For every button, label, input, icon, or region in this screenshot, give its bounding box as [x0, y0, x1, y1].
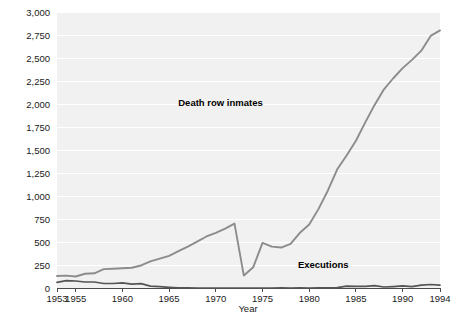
y-axis-tick-label: 2,500 — [26, 53, 50, 64]
x-axis-tick-label: 1955 — [65, 293, 86, 304]
y-axis-tick-label: 250 — [34, 260, 50, 271]
x-axis-tick-label: 1985 — [345, 293, 366, 304]
x-axis-tick-label: 1965 — [159, 293, 180, 304]
y-axis-tick-label: 3,000 — [26, 7, 50, 18]
x-axis-tick-label: 1980 — [299, 293, 320, 304]
y-axis-tick-labels: 02505007501,0001,2501,5001,7502,0002,250… — [26, 7, 50, 294]
y-axis-tick-label: 500 — [34, 237, 50, 248]
line-chart: 02505007501,0001,2501,5001,7502,0002,250… — [0, 0, 461, 335]
x-axis-title: Year — [238, 303, 257, 314]
x-axis-tick-label: 1990 — [392, 293, 413, 304]
x-axis-tick-label: 1994 — [429, 293, 450, 304]
y-axis-tick-label: 2,750 — [26, 30, 50, 41]
y-axis-tick-label: 1,250 — [26, 168, 50, 179]
y-axis-tick-label: 1,750 — [26, 122, 50, 133]
x-axis-tick-label: 1970 — [205, 293, 226, 304]
y-axis-tick-label: 1,500 — [26, 145, 50, 156]
series-annotation-label: Executions — [298, 259, 349, 270]
y-axis-tick-label: 1,000 — [26, 191, 50, 202]
y-axis-tick-label: 750 — [34, 214, 50, 225]
y-axis-tick-label: 2,000 — [26, 99, 50, 110]
x-axis-tick-label: 1960 — [112, 293, 133, 304]
y-axis-tick-label: 2,250 — [26, 76, 50, 87]
chart-container: 02505007501,0001,2501,5001,7502,0002,250… — [0, 0, 461, 335]
y-axis-tick-label: 0 — [45, 283, 50, 294]
series-annotation-label: Death row inmates — [178, 97, 262, 108]
